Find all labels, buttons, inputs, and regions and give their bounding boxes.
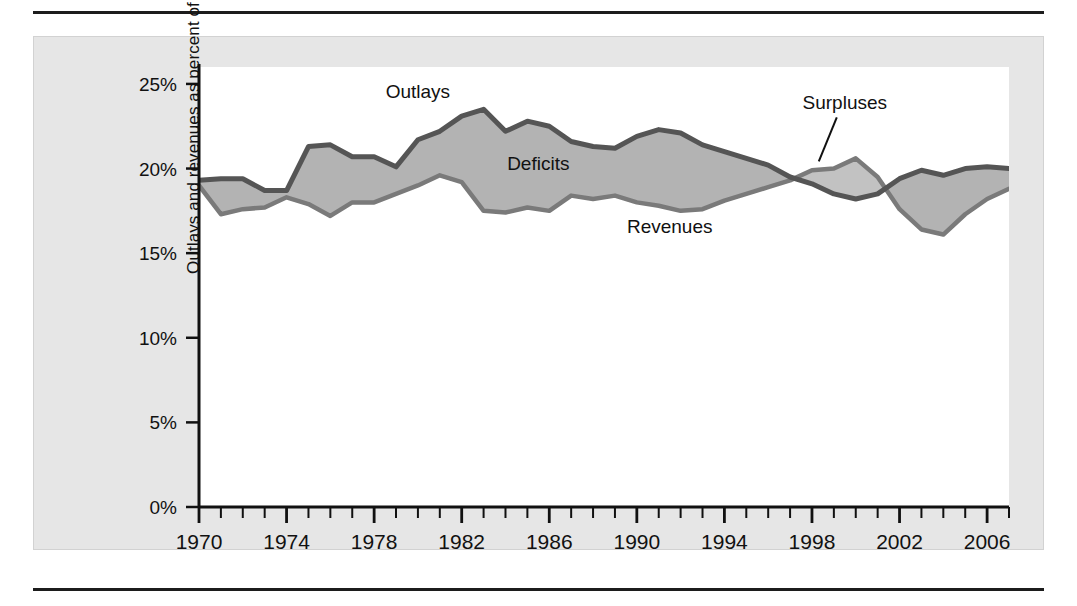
bottom-horizontal-rule <box>33 588 1044 591</box>
x-tick-label: 1978 <box>351 530 398 551</box>
x-tick-label: 1986 <box>526 530 573 551</box>
x-tick-label: 2002 <box>876 530 923 551</box>
chart-svg: OutlaysDeficitsRevenuesSurpluses <box>199 67 1009 507</box>
y-tick-label: 20% <box>139 159 177 180</box>
x-tick-label: 1994 <box>701 530 748 551</box>
x-tick-label: 1990 <box>613 530 660 551</box>
annotation-outlays: Outlays <box>386 81 450 102</box>
plot-area: OutlaysDeficitsRevenuesSurpluses <box>199 67 1009 507</box>
annotation-revenues: Revenues <box>627 216 713 237</box>
x-tick-label: 1982 <box>438 530 485 551</box>
x-tick-label: 1974 <box>263 530 310 551</box>
annotation-surpluses: Surpluses <box>803 92 888 113</box>
chart-page: Outlays and revenues as percent of GDP O… <box>0 0 1077 606</box>
x-tick-label: 1998 <box>789 530 836 551</box>
y-tick-label: 15% <box>139 243 177 264</box>
y-tick-label: 25% <box>139 74 177 95</box>
x-tick-label: 2006 <box>964 530 1011 551</box>
y-tick-label: 10% <box>139 328 177 349</box>
surpluses-leader-line <box>819 117 837 161</box>
figure-panel: Outlays and revenues as percent of GDP O… <box>33 36 1044 550</box>
x-tick-label: 1970 <box>176 530 223 551</box>
y-tick-label: 5% <box>150 412 178 433</box>
annotation-deficits: Deficits <box>507 153 569 174</box>
y-tick-label: 0% <box>150 497 178 518</box>
